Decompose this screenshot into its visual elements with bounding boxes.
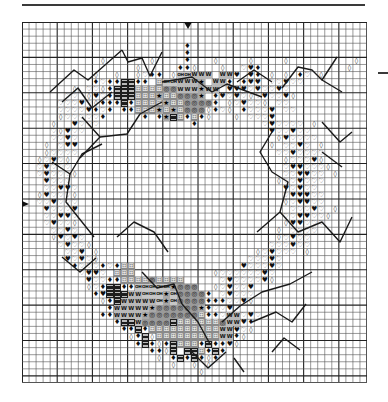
stitch-star-icon: ★ <box>198 93 205 100</box>
stitch-filled-diamond-icon: ♦ <box>184 43 191 50</box>
stitch-filled-heart-icon: ♥ <box>57 213 64 220</box>
stitch-open-heart-icon: ♡ <box>50 171 57 178</box>
stitch-open-heart-icon: ♡ <box>247 263 254 270</box>
stitch-star-icon: ★ <box>149 305 156 312</box>
stitch-open-diamond-icon: ◊ <box>247 298 254 305</box>
stitch-boxed-plus-icon: ⊞ <box>191 319 198 326</box>
stitch-hourglass-block-icon <box>128 93 135 100</box>
stitch-bullseye-icon: ◎ <box>149 277 156 284</box>
stitch-open-heart-icon: ♡ <box>57 100 64 107</box>
stitch-open-diamond-icon: ◊ <box>36 156 43 163</box>
stitch-filled-diamond-icon: ♦ <box>114 100 121 107</box>
stitch-open-diamond-icon: ◊ <box>254 249 261 256</box>
stitch-open-heart-icon: ♡ <box>283 234 290 241</box>
stitch-boxed-plus-icon: ⊞ <box>191 114 198 121</box>
stitch-open-heart-icon: ♡ <box>254 277 261 284</box>
stitch-open-diamond-icon: ◊ <box>247 57 254 64</box>
stitch-open-diamond-icon: ◊ <box>205 114 212 121</box>
stitch-filled-diamond-icon: ♦ <box>184 355 191 362</box>
stitch-open-heart-icon: ♡ <box>57 135 64 142</box>
stitch-w-letter-icon: W <box>128 305 135 312</box>
stitch-w-letter-icon: W <box>142 305 149 312</box>
stitch-boxed-plus-icon: ⊞ <box>184 326 191 333</box>
stitch-open-heart-icon: ♡ <box>268 86 275 93</box>
stitch-open-heart-icon: ♡ <box>219 284 226 291</box>
stitch-filled-heart-icon: ♥ <box>261 270 268 277</box>
stitch-open-heart-icon: ♡ <box>71 135 78 142</box>
stitch-open-diamond-icon: ◊ <box>92 249 99 256</box>
stitch-filled-heart-icon: ♥ <box>78 256 85 263</box>
stitch-filled-diamond-icon: ♦ <box>128 107 135 114</box>
stitch-open-heart-icon: ♡ <box>275 93 282 100</box>
stitch-open-heart-icon: ♡ <box>219 305 226 312</box>
stitch-filled-diamond-icon: ♦ <box>142 79 149 86</box>
stitch-filled-heart-icon: ♥ <box>261 277 268 284</box>
stitch-open-heart-icon: ♡ <box>261 114 268 121</box>
stitch-filled-diamond-icon: ♦ <box>106 107 113 114</box>
stitch-hourglass-block-icon <box>121 86 128 93</box>
stitch-open-diamond-icon: ◊ <box>275 135 282 142</box>
stitch-open-heart-icon: ♡ <box>247 86 254 93</box>
stitch-open-heart-icon: ♡ <box>297 121 304 128</box>
stitch-hourglass-block-icon <box>205 341 212 348</box>
stitch-cells: ♦♦◊◊♦◊◊◊◊◊♦♦◊◊♡♥♦◊◊◊◊♡♦♦◊OHOHWWWWW♥♥♦◊◊♦… <box>22 22 367 383</box>
stitch-hourglass-block-icon <box>170 114 177 121</box>
stitch-filled-heart-icon: ♥ <box>290 241 297 248</box>
stitch-open-diamond-icon: ◊ <box>212 57 219 64</box>
stitch-filled-diamond-icon: ♦ <box>106 86 113 93</box>
stitch-open-diamond-icon: ◊ <box>212 284 219 291</box>
stitch-open-diamond-icon: ◊ <box>226 107 233 114</box>
stitch-filled-diamond-icon: ♦ <box>184 57 191 64</box>
stitch-open-heart-icon: ♡ <box>71 199 78 206</box>
stitch-open-heart-icon: ♡ <box>290 213 297 220</box>
stitch-w-letter-icon: W <box>177 79 184 86</box>
stitch-open-diamond-icon: ◊ <box>332 171 339 178</box>
stitch-w-letter-icon: W <box>128 291 135 298</box>
stitch-filled-heart-icon: ♥ <box>233 93 240 100</box>
stitch-open-diamond-icon: ◊ <box>198 369 205 376</box>
stitch-open-heart-icon: ♡ <box>85 121 92 128</box>
stitch-filled-heart-icon: ♥ <box>85 277 92 284</box>
stitch-open-heart-icon: ♡ <box>254 263 261 270</box>
stitch-open-heart-icon: ♡ <box>318 164 325 171</box>
stitch-filled-heart-icon: ♥ <box>247 284 254 291</box>
stitch-filled-diamond-icon: ♦ <box>99 263 106 270</box>
stitch-boxed-plus-icon: ⊞ <box>198 348 205 355</box>
stitch-oh-symbol-icon: OH <box>156 298 163 305</box>
stitch-open-heart-icon: ♡ <box>318 213 325 220</box>
stitch-filled-heart-icon: ♥ <box>297 185 304 192</box>
stitch-open-heart-icon: ♡ <box>283 171 290 178</box>
stitch-boxed-plus-icon: ⊞ <box>135 93 142 100</box>
stitch-w-letter-icon: W <box>219 79 226 86</box>
stitch-open-diamond-icon: ◊ <box>99 57 106 64</box>
stitch-open-heart-icon: ♡ <box>71 149 78 156</box>
stitch-open-diamond-icon: ◊ <box>57 128 64 135</box>
stitch-open-heart-icon: ♡ <box>233 270 240 277</box>
stitch-oh-symbol-icon: OH <box>156 284 163 291</box>
stitch-filled-heart-icon: ♥ <box>254 79 261 86</box>
stitch-open-heart-icon: ♡ <box>50 213 57 220</box>
stitch-bullseye-icon: ◎ <box>163 86 170 93</box>
stitch-w-letter-icon: W <box>135 312 142 319</box>
stitch-filled-diamond-icon: ♦ <box>99 100 106 107</box>
stitch-w-letter-icon: W <box>121 305 128 312</box>
stitch-filled-heart-icon: ♥ <box>275 86 282 93</box>
stitch-filled-diamond-icon: ♦ <box>114 79 121 86</box>
stitch-open-heart-icon: ♡ <box>304 135 311 142</box>
stitch-open-heart-icon: ♡ <box>78 121 85 128</box>
stitch-boxed-plus-icon: ⊞ <box>142 107 149 114</box>
stitch-bullseye-icon: ◎ <box>177 312 184 319</box>
stitch-open-diamond-icon: ◊ <box>283 72 290 79</box>
stitch-open-diamond-icon: ◊ <box>304 249 311 256</box>
stitch-open-diamond-icon: ◊ <box>43 142 50 149</box>
stitch-filled-diamond-icon: ♦ <box>121 326 128 333</box>
stitch-filled-diamond-icon: ♦ <box>247 319 254 326</box>
stitch-open-heart-icon: ♡ <box>219 277 226 284</box>
stitch-boxed-plus-icon: ⊞ <box>191 333 198 340</box>
stitch-bullseye-icon: ◎ <box>191 298 198 305</box>
stitch-w-letter-icon: W <box>142 298 149 305</box>
stitch-filled-heart-icon: ♥ <box>297 171 304 178</box>
stitch-hourglass-block-icon <box>121 93 128 100</box>
stitch-w-letter-icon: W <box>205 86 212 93</box>
stitch-filled-heart-icon: ♥ <box>268 114 275 121</box>
